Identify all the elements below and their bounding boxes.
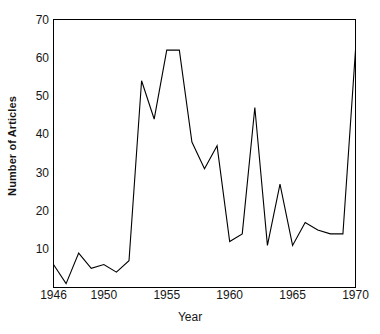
x-tick-label: 1946 — [40, 288, 67, 302]
plot-area — [0, 0, 380, 334]
x-tick-label: 1960 — [216, 288, 243, 302]
chart-figure: Number of Articles 10203040506070 194619… — [0, 0, 380, 334]
axes-frame — [54, 20, 356, 288]
x-axis-label: Year — [0, 310, 380, 324]
x-tick-label: 1955 — [153, 288, 180, 302]
data-line-number-of-articles — [54, 50, 356, 284]
x-tick-label: 1965 — [279, 288, 306, 302]
x-tick-label: 1970 — [342, 288, 369, 302]
x-tick-label: 1950 — [90, 288, 117, 302]
